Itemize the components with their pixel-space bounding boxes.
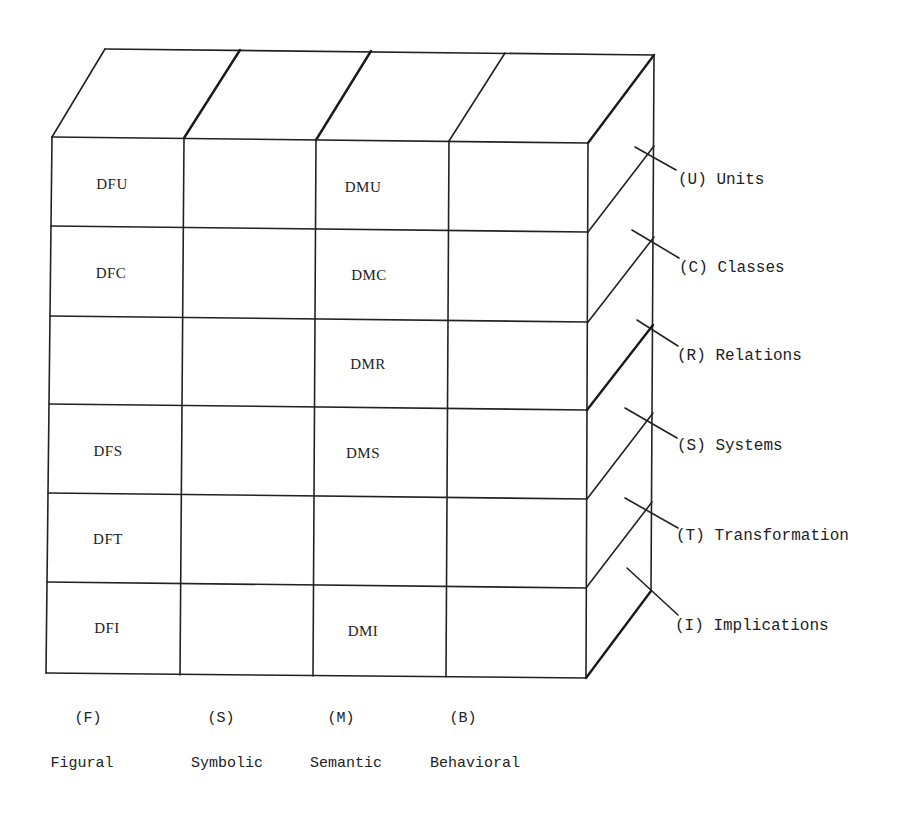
row-label-systems: (S) Systems — [677, 437, 783, 455]
front-face-rows — [46, 137, 588, 678]
top-face — [52, 49, 654, 143]
col-name-figural: Figural — [50, 755, 113, 772]
row-label-relations: (R) Relations — [677, 347, 802, 365]
cell-dfs: DFS — [93, 443, 122, 460]
cell-dfc: DFC — [96, 265, 127, 282]
row-label-implications: (I) Implications — [675, 617, 829, 635]
col-code-semantic: (M) — [327, 710, 354, 727]
cell-dmi: DMI — [348, 623, 379, 640]
cell-dms: DMS — [346, 445, 380, 462]
cell-dmu: DMU — [345, 179, 382, 196]
cell-dmc: DMC — [351, 267, 387, 284]
col-name-semantic: Semantic — [310, 755, 382, 772]
row-label-units: (U) Units — [678, 171, 764, 189]
col-code-behavioral: (B) — [449, 710, 476, 727]
col-name-symbolic: Symbolic — [191, 755, 263, 772]
cell-dmr: DMR — [350, 356, 386, 373]
cell-dfu: DFU — [96, 176, 128, 193]
col-code-figural: (F) — [74, 710, 101, 727]
row-label-classes: (C) Classes — [679, 259, 785, 277]
cell-dfi: DFI — [94, 620, 120, 637]
col-name-behavioral: Behavioral — [430, 755, 520, 772]
cube-diagram — [0, 0, 913, 815]
col-code-symbolic: (S) — [207, 710, 234, 727]
row-label-transformation: (T) Transformation — [676, 527, 849, 545]
cell-dft: DFT — [93, 531, 123, 548]
